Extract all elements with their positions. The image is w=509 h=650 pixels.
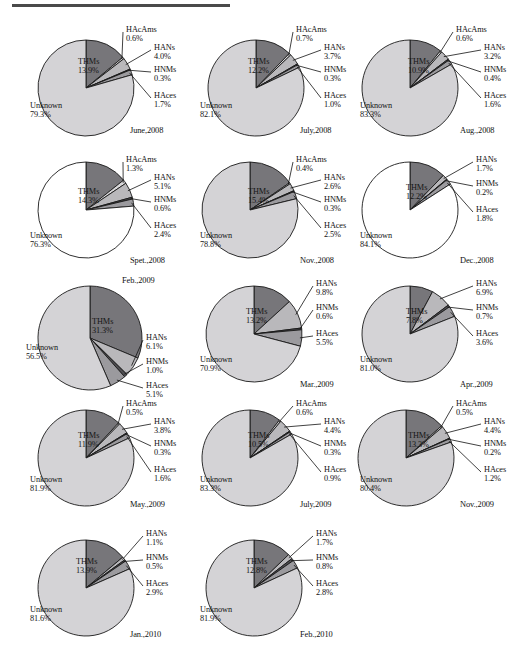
slice-label-name: HAces — [476, 205, 498, 214]
slice-label-thms: THMs10.9% — [408, 58, 429, 76]
slice-label-thms: THMs31.3% — [92, 318, 113, 336]
slice-label-hnms: HNMs0.3% — [324, 66, 346, 84]
slice-label-hnms: HNMs0.7% — [476, 304, 498, 322]
slice-label-name: THMs — [406, 183, 427, 192]
slice-label-hans: HANs4.4% — [484, 418, 505, 436]
slice-label-thms: THMs13.2% — [246, 308, 267, 326]
leader-line — [124, 560, 143, 562]
leader-line — [118, 406, 123, 425]
slice-label-hans: HANs5.1% — [154, 174, 175, 192]
slice-label-thms: THMs12.2% — [248, 58, 269, 76]
slice-label-name: HNMs — [484, 65, 506, 74]
slice-label-name: HAcAms — [126, 399, 157, 408]
slice-label-name: HANs — [484, 417, 505, 426]
slice-label-value: 1.1% — [146, 539, 167, 548]
slice-label-value: 4.4% — [324, 427, 345, 436]
slice-label-name: THMs — [246, 557, 267, 566]
slice-label-unknown: Unknown84.1% — [360, 232, 392, 250]
slice-label-name: Unknown — [200, 101, 232, 110]
slice-label-hnms: HNMs1.0% — [146, 358, 168, 376]
slice-label-hnms: HNMs0.2% — [484, 440, 506, 458]
pie-chart-cell: THMs31.3%HANs6.1%HNMs1.0%HAces5.1%Unknow… — [18, 272, 188, 402]
slice-label-name: HNMs — [154, 65, 176, 74]
slice-label-name: HNMs — [476, 179, 498, 188]
slice-label-name: HAces — [316, 579, 338, 588]
slice-label-unknown: Unknown70.9% — [200, 356, 232, 374]
slice-label-value: 0.2% — [484, 449, 506, 458]
slice-label-value: 0.3% — [324, 449, 346, 458]
slice-label-hnms: HNMs0.6% — [316, 304, 338, 322]
slice-label-haces: HAces1.6% — [154, 466, 176, 484]
slice-label-value: 0.5% — [146, 563, 168, 572]
slice-label-hnms: HNMs0.2% — [476, 180, 498, 198]
slice-label-name: HNMs — [324, 195, 346, 204]
slice-label-value: 10.9% — [408, 67, 429, 76]
slice-label-value: 78.8% — [200, 241, 232, 250]
slice-label-value: 82.1% — [200, 111, 232, 120]
slice-label-name: HNMs — [476, 303, 498, 312]
slice-label-value: 2.8% — [316, 589, 338, 598]
slice-label-name: THMs — [246, 307, 267, 316]
pie-chart-cell: THMs15.4%HAcAms0.4%HANs2.6%HNMs0.3%HAces… — [188, 148, 358, 278]
pie-chart-cell: THMs13.9%HANs1.1%HNMs0.5%HAces2.9%Unknow… — [18, 522, 188, 650]
slice-label-value: 0.3% — [154, 449, 176, 458]
slice-label-haces: HAces3.6% — [476, 330, 498, 348]
slice-label-hans: HANs3.2% — [484, 44, 505, 62]
leader-line — [300, 310, 313, 329]
slice-label-hans: HANs1.7% — [316, 530, 337, 548]
slice-label-value: 6.9% — [476, 289, 497, 298]
slice-label-name: HANs — [476, 279, 497, 288]
slice-label-name: Unknown — [26, 343, 58, 352]
pie-period-title: Feb.,2009 — [122, 276, 155, 285]
slice-label-thms: THMs12.8% — [246, 558, 267, 576]
slice-label-value: 0.8% — [316, 563, 338, 572]
slice-label-name: THMs — [248, 431, 269, 440]
pie-period-title: Nov.,2009 — [460, 500, 494, 509]
slice-label-value: 0.6% — [154, 205, 176, 214]
slice-label-hnms: HNMs0.5% — [146, 554, 168, 572]
slice-label-value: 2.4% — [154, 231, 176, 240]
slice-label-name: HAces — [146, 381, 168, 390]
pie-chart-cell: THMs12.2%HANs1.7%HNMs0.2%HAces1.8%Unknow… — [348, 148, 509, 278]
slice-label-name: THMs — [248, 57, 269, 66]
slice-label-value: 12.2% — [406, 193, 427, 202]
slice-label-hnms: HNMs0.3% — [324, 440, 346, 458]
leader-line — [445, 424, 481, 433]
leader-line — [444, 162, 473, 179]
slice-label-name: HNMs — [324, 439, 346, 448]
slice-label-value: 4.0% — [154, 53, 175, 62]
leader-line — [284, 424, 321, 427]
slice-label-value: 0.9% — [324, 475, 346, 484]
slice-label-value: 3.6% — [476, 339, 498, 348]
leader-line — [122, 536, 143, 560]
slice-label-haces: HAces1.7% — [154, 92, 176, 110]
slice-label-value: 3.7% — [324, 53, 345, 62]
slice-label-name: HAces — [476, 329, 498, 338]
pie-period-title: Apr.,2009 — [460, 380, 493, 389]
slice-label-haces: HAces1.8% — [476, 206, 498, 224]
slice-label-unknown: Unknown80.4% — [360, 476, 392, 494]
slice-label-name: Unknown — [360, 231, 392, 240]
slice-label-name: HAces — [484, 91, 506, 100]
slice-label-value: 1.2% — [484, 475, 506, 484]
slice-label-hacams: HAcAms0.4% — [296, 156, 327, 174]
slice-label-name: Unknown — [30, 101, 62, 110]
slice-label-name: HNMs — [146, 553, 168, 562]
slice-label-value: 12.8% — [246, 567, 267, 576]
slice-label-unknown: Unknown56.5% — [26, 344, 58, 362]
slice-label-thms: THMs13.9% — [78, 58, 99, 76]
slice-label-name: HANs — [484, 43, 505, 52]
slice-label-hans: HANs6.1% — [146, 334, 167, 352]
slice-label-value: 81.9% — [200, 615, 232, 624]
slice-label-value: 70.9% — [200, 365, 232, 374]
slice-label-hnms: HNMs0.8% — [316, 554, 338, 572]
pie-period-title: May.,2009 — [130, 500, 165, 509]
slice-label-haces: HAces5.5% — [316, 330, 338, 348]
slice-label-name: HNMs — [154, 439, 176, 448]
slice-label-haces: HAces1.2% — [484, 466, 506, 484]
pie-period-title: Spet.,2008 — [130, 256, 165, 265]
leader-line — [117, 380, 143, 388]
slice-label-haces: HAces2.9% — [146, 580, 168, 598]
slice-label-hnms: HNMs0.4% — [484, 66, 506, 84]
slice-label-thms: THMs12.2% — [406, 184, 427, 202]
